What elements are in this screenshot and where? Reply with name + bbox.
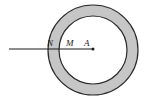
point-a-dot xyxy=(92,48,95,51)
label-n: N xyxy=(46,38,54,48)
annulus-diagram: N M A xyxy=(0,0,147,102)
figure-container: N M A xyxy=(0,0,147,102)
label-m: M xyxy=(65,38,74,48)
label-a: A xyxy=(83,38,90,48)
